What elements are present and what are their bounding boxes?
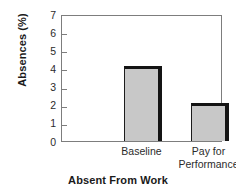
bar	[124, 66, 162, 141]
plot-area	[61, 15, 222, 142]
y-axis-title: Absences (%)	[16, 0, 30, 110]
y-axis-tick-label: 1	[34, 118, 56, 128]
y-axis-tick-label: 0	[34, 137, 56, 147]
y-axis-tick-label: 7	[34, 10, 56, 20]
x-axis-category-label: Pay for Performance	[164, 145, 237, 170]
y-axis-tick-mark	[62, 107, 67, 108]
y-axis-tick-mark	[62, 34, 67, 35]
y-axis-tick-mark	[62, 52, 67, 53]
y-axis-tick-label: 3	[34, 82, 56, 92]
bar-chart-figure: Absences (%) 01234567 BaselinePay for Pe…	[0, 0, 236, 194]
y-axis-tick-label: 2	[34, 100, 56, 110]
y-axis-tick-label: 4	[34, 64, 56, 74]
x-axis-title: Absent From Work	[0, 174, 236, 186]
y-axis-tick-label: 6	[34, 28, 56, 38]
y-axis-tick-mark	[62, 125, 67, 126]
y-axis-tick-mark	[62, 70, 67, 71]
y-axis-tick-mark	[62, 89, 67, 90]
y-axis-tick-label: 5	[34, 46, 56, 56]
bar	[191, 103, 229, 141]
